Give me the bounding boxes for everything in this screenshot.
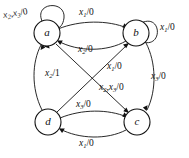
- state-label-b: b: [126, 27, 146, 38]
- state-label-d: d: [38, 116, 58, 127]
- edge-label-a-to-c: x2,x3/0: [99, 82, 124, 92]
- edge-label-d-to-a: x2/1: [45, 68, 60, 78]
- edge-label-b-to-a: x2/0: [78, 44, 93, 54]
- edge-b-to-c-arrowhead: [143, 105, 148, 111]
- state-label-c: c: [127, 116, 147, 127]
- edge-d-to-c-path: [60, 111, 127, 118]
- edge-label-b-self: x1/0: [160, 22, 175, 32]
- edge-d-to-a-path: [34, 45, 42, 110]
- edge-label-d-to-c: x3/0: [76, 99, 91, 109]
- edge-d-to-b: [57, 43, 129, 112]
- edge-a-to-b-path: [58, 22, 127, 29]
- edge-c-to-d: [59, 128, 126, 137]
- state-label-a: a: [37, 27, 57, 38]
- edge-label-c-to-d: x1/0: [79, 138, 94, 148]
- edge-label-a-to-b: x1/0: [79, 7, 94, 17]
- edge-label-b-to-c: x3/0: [151, 71, 166, 81]
- edge-d-to-c: [60, 111, 128, 118]
- edge-c-to-d-path: [60, 129, 126, 137]
- edge-a-to-b: [58, 22, 128, 29]
- edge-d-to-a: [34, 44, 45, 110]
- edge-label-d-to-b: x1/0: [107, 61, 122, 71]
- state-machine-diagram: a b d c x2,x3/0 x1/0 x1/0 x2/0 x2/1 x1/0…: [0, 0, 189, 158]
